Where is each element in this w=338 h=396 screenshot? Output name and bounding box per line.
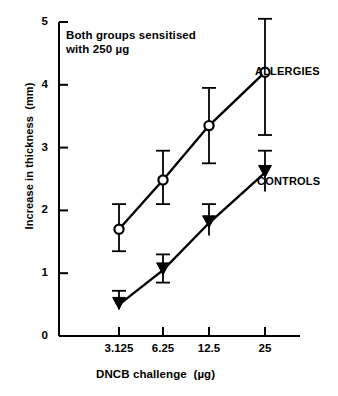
sensitisation-note: Both groups sensitisedwith 250 µg xyxy=(66,28,196,56)
y-tick-label-1: 1 xyxy=(26,266,48,278)
y-ticks xyxy=(59,22,68,336)
x-tick-label-4: 25 xyxy=(241,342,289,354)
y-tick-label-3: 3 xyxy=(26,141,48,153)
y-tick-label-2: 2 xyxy=(26,203,48,215)
x-tick-label-2: 6.25 xyxy=(139,342,187,354)
note-line-1: Both groups sensitised xyxy=(66,29,196,41)
series-controls xyxy=(112,151,272,310)
data-point-controls-1 xyxy=(113,297,126,309)
x-tick-label-1: 3.125 xyxy=(95,342,143,354)
data-point-controls-3 xyxy=(203,216,216,228)
y-tick-label-5: 5 xyxy=(26,15,48,27)
x-ticks xyxy=(119,327,265,336)
y-axis-title: Increase in thickness (mm) xyxy=(23,71,35,241)
data-point-allergies-3 xyxy=(204,121,213,130)
controls-error-bars xyxy=(112,151,272,310)
controls-line xyxy=(119,173,265,305)
figure-container: Both groups sensitisedwith 250 µg ALLERG… xyxy=(0,0,338,396)
y-tick-label-4: 4 xyxy=(26,78,48,90)
y-tick-label-0: 0 xyxy=(26,329,48,341)
data-point-allergies-2 xyxy=(158,175,167,184)
plot-area xyxy=(0,0,338,396)
note-line-2: with 250 µg xyxy=(66,43,129,55)
data-point-allergies-1 xyxy=(114,225,123,234)
allergies-line xyxy=(119,72,265,229)
series-label-controls: CONTROLS xyxy=(257,175,320,187)
x-axis-title: DNCB challenge (µg) xyxy=(96,368,215,380)
x-tick-label-3: 12.5 xyxy=(185,342,233,354)
series-label-allergies: ALLERGIES xyxy=(255,65,320,77)
